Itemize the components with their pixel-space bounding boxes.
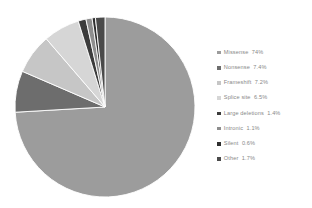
legend-item-value: 7.4% (253, 65, 266, 71)
legend-item-label: Large deletions (224, 111, 264, 117)
legend-item-label: Intronic (224, 126, 243, 132)
legend-item-label: Splice site (224, 95, 251, 101)
legend-item[interactable]: Splice site6.5% (217, 91, 312, 106)
legend-item-label: Missense (224, 50, 249, 56)
legend-item-value: 0.6% (242, 141, 255, 147)
legend-item-label: Frameshift (224, 80, 252, 86)
legend-color-swatch (217, 96, 221, 100)
legend-color-swatch (217, 81, 221, 85)
legend-color-swatch (217, 127, 221, 131)
legend-item-value: 6.5% (254, 95, 267, 101)
legend-item-label: Nonsense (224, 65, 250, 71)
legend-color-swatch (217, 51, 221, 55)
legend-item[interactable]: Nonsense7.4% (217, 60, 312, 75)
legend-item-value: 7.2% (255, 80, 268, 86)
pie-plot-area (0, 0, 212, 208)
pie-slice-group (15, 17, 195, 197)
legend-item[interactable]: Missense74% (217, 45, 312, 60)
legend-item-value: 1.4% (267, 111, 280, 117)
pie-chart-figure: Missense74%Nonsense7.4%Frameshift7.2%Spl… (0, 0, 312, 208)
legend-item-label: Silent (224, 141, 239, 147)
legend-item-value: 74% (252, 50, 264, 56)
legend-color-swatch (217, 157, 221, 161)
legend-color-swatch (217, 66, 221, 70)
legend-item-value: 1.1% (246, 126, 259, 132)
legend-item[interactable]: Other1.7% (217, 151, 312, 166)
legend-item[interactable]: Large deletions1.4% (217, 106, 312, 121)
legend-item-value: 1.7% (242, 156, 255, 162)
legend-color-swatch (217, 142, 221, 146)
legend-item-label: Other (224, 156, 239, 162)
chart-legend: Missense74%Nonsense7.4%Frameshift7.2%Spl… (212, 0, 312, 167)
pie-svg (0, 0, 212, 208)
legend-item[interactable]: Intronic1.1% (217, 121, 312, 136)
legend-color-swatch (217, 112, 221, 116)
legend-item[interactable]: Silent0.6% (217, 136, 312, 151)
legend-item[interactable]: Frameshift7.2% (217, 75, 312, 90)
